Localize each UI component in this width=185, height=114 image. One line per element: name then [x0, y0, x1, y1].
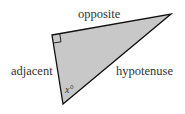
label-angle-x: x° [64, 84, 73, 95]
label-adjacent: adjacent [11, 64, 53, 78]
label-hypotenuse: hypotenuse [116, 64, 173, 78]
label-opposite: opposite [78, 7, 121, 21]
triangle-diagram: opposite adjacent hypotenuse x° [0, 0, 185, 114]
